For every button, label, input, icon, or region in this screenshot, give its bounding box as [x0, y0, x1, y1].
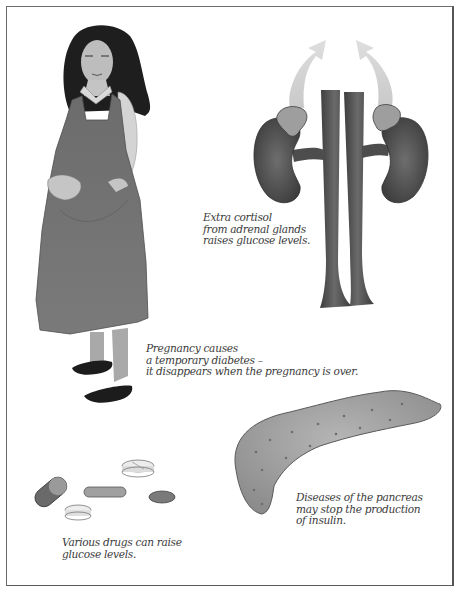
kidney-adrenal-illustration	[254, 40, 428, 308]
pills-illustration	[31, 460, 175, 520]
pancreas-caption: Diseases of the pancreas may stop the pr…	[296, 492, 423, 527]
pregnant-woman-illustration	[36, 25, 150, 403]
drugs-caption: Various drugs can raise glucose levels.	[62, 537, 182, 560]
adrenal-caption: Extra cortisol from adrenal glands raise…	[203, 212, 310, 247]
pregnancy-caption: Pregnancy causes a temporary diabetes – …	[146, 343, 358, 378]
